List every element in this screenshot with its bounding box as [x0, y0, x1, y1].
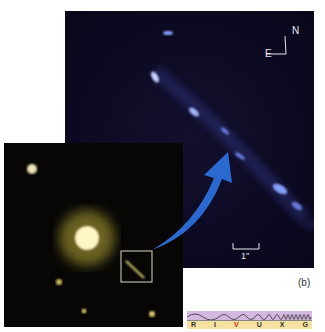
band-labels: R I V U X G — [187, 321, 312, 329]
band-v-active: V — [234, 321, 239, 329]
inset-box — [121, 251, 152, 282]
band-u: U — [257, 321, 262, 329]
compass-east-label: E — [265, 48, 272, 59]
band-x: X — [280, 321, 285, 329]
band-i: I — [214, 321, 216, 329]
band-g: G — [303, 321, 308, 329]
panel-label: (b) — [298, 277, 310, 288]
band-r: R — [191, 321, 196, 329]
compass-north-label: N — [292, 25, 299, 36]
quasar-field-image — [4, 143, 183, 327]
wavelength-wave — [187, 311, 312, 321]
spectrum-band-indicator: R I V U X G — [187, 311, 312, 328]
scale-bar-label: 1" — [241, 251, 249, 261]
quasar-field — [4, 143, 183, 327]
